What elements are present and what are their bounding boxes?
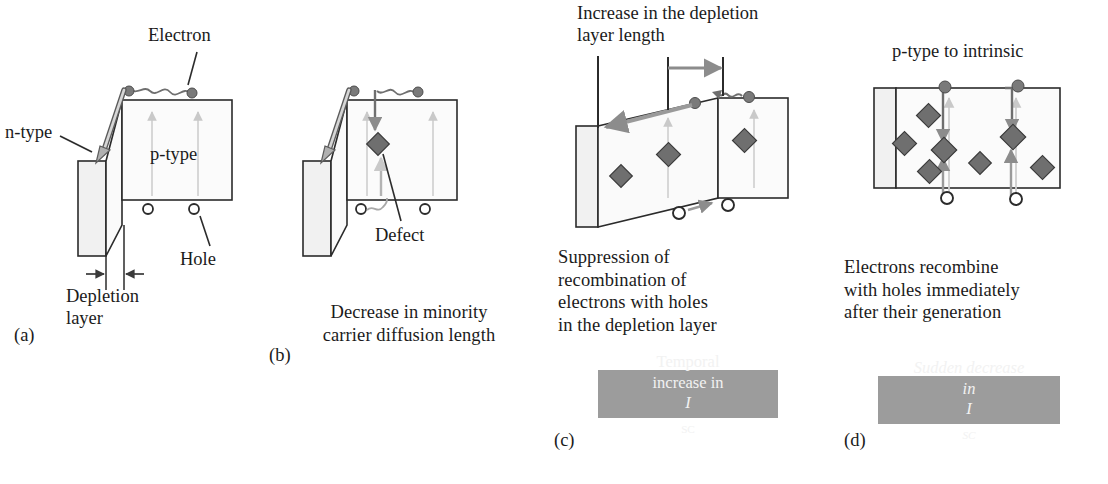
caption-c-line2: recombination of	[558, 269, 798, 292]
hole-circle	[356, 204, 366, 214]
electron-dot	[939, 81, 951, 93]
electron-path	[377, 90, 415, 95]
caption-c-line3: electrons with holes	[558, 291, 798, 314]
result-box-c-symbol: I	[652, 393, 723, 414]
electron-path	[131, 89, 190, 95]
caption-b: Decrease in minority carrier diffusion l…	[274, 301, 544, 346]
caption-c-line1: Suppression of	[558, 246, 798, 269]
hole-circle	[420, 204, 430, 214]
caption-d-line2: with holes immediately	[844, 279, 1094, 302]
panel-a-graphic	[0, 0, 280, 484]
result-box-d: Sudden decrease in ISC	[878, 376, 1060, 424]
panel-label-b: (b)	[269, 345, 291, 366]
label-increase-line2: layer length	[577, 24, 665, 46]
electron-dot	[1012, 80, 1024, 92]
caption-d-line1: Electrons recombine	[844, 256, 1094, 279]
result-box-c-line2-pre: increase in	[652, 373, 723, 394]
label-n-type: n-type	[5, 121, 52, 143]
caption-d-line3: after their generation	[844, 301, 1094, 324]
result-box-d-line2-pre: in	[914, 379, 1025, 400]
label-increase-line1: Increase in the depletion	[577, 2, 758, 24]
hole-circle	[143, 204, 153, 214]
label-p-type-to-intrinsic: p-type to intrinsic	[892, 40, 1024, 62]
panel-c: Increase in the depletion layer length S…	[540, 0, 840, 484]
result-box-d-line1: Sudden decrease	[914, 358, 1025, 379]
caption-d: Electrons recombine with holes immediate…	[844, 256, 1094, 324]
label-p-type: p-type	[150, 143, 197, 165]
label-depletion-line1: Depletion	[66, 285, 139, 307]
label-electron: Electron	[148, 24, 211, 46]
hole-circle	[673, 207, 685, 219]
panel-label-a: (a)	[14, 325, 35, 346]
panel-a: Electron n-type p-type Hole Depletion la…	[0, 0, 280, 484]
electron-dot	[413, 87, 423, 97]
result-box-c-line2: increase in ISC	[652, 373, 723, 437]
label-defect: Defect	[375, 224, 424, 246]
panel-label-c: (c)	[554, 430, 575, 451]
result-box-d-symbol: I	[914, 399, 1025, 420]
caption-c: Suppression of recombination of electron…	[558, 246, 798, 336]
electron-dot	[744, 92, 755, 103]
p-type-slab	[347, 100, 457, 200]
p-type-slab	[718, 98, 788, 198]
caption-c-line4: in the depletion layer	[558, 314, 798, 337]
n-type-slab	[303, 161, 331, 256]
result-box-c: Temporal increase in ISC	[598, 370, 778, 418]
n-type-slab	[78, 161, 106, 256]
hole-circle	[722, 199, 734, 211]
hole-circle	[1010, 193, 1022, 205]
caption-b-line1: Decrease in minority	[274, 301, 544, 324]
caption-b-line2: carrier diffusion length	[274, 324, 544, 347]
hole-leader	[200, 216, 210, 246]
label-hole: Hole	[180, 248, 216, 270]
label-depletion-line2: layer	[66, 307, 103, 329]
panel-b: Defect Decrease in minority carrier diff…	[255, 0, 545, 484]
n-type-slab	[874, 88, 896, 188]
result-box-c-subscript: SC	[681, 423, 695, 435]
result-box-d-subscript: SC	[962, 429, 975, 441]
result-box-c-line1: Temporal	[652, 352, 723, 373]
panel-d: p-type to intrinsic Electrons recombine …	[830, 0, 1108, 484]
result-box-d-line2: in ISC	[914, 379, 1025, 443]
ntype-leader	[60, 136, 92, 152]
electron-leader	[188, 52, 197, 85]
hole-circle	[941, 192, 953, 204]
n-type-slab	[576, 126, 598, 227]
electron-dot	[187, 88, 197, 98]
hole-circle	[189, 204, 199, 214]
panel-label-d: (d)	[844, 430, 866, 451]
